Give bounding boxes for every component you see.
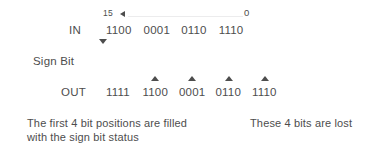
bit-index-lsb-label: 0: [244, 7, 249, 18]
bit-index-msb-label: 15: [103, 8, 113, 18]
triangle-up-icon: [261, 76, 269, 81]
out-row-label: OUT: [61, 86, 86, 98]
caption-left-line1: The first 4 bit positions are filled: [27, 116, 187, 130]
triangle-down-icon: [99, 39, 107, 44]
in-bit-group: 1110: [219, 24, 244, 36]
out-bit-group: 1110: [252, 86, 277, 98]
caption-left-line2: with the sign bit status: [27, 130, 187, 144]
triangle-up-icon: [151, 76, 159, 81]
sign-bit-label: Sign Bit: [33, 55, 74, 67]
ruler-line: [128, 16, 243, 17]
caption-right: These 4 bits are lost: [250, 116, 352, 130]
triangle-up-icon: [225, 76, 233, 81]
in-row-bits: 1100000101101110: [106, 24, 243, 36]
in-row-label: IN: [69, 24, 81, 36]
out-bit-group: 1100: [143, 86, 180, 98]
in-bit-group: 1100: [106, 24, 144, 36]
caption-left: The first 4 bit positions are filled wit…: [27, 116, 187, 144]
out-bit-group: 1111: [106, 86, 143, 98]
triangle-up-icon: [188, 76, 196, 81]
out-row-bits: 11111100000101101110: [106, 86, 277, 98]
out-bit-group: 0001: [179, 86, 216, 98]
in-bit-group: 0001: [144, 24, 182, 36]
in-bit-group: 0110: [181, 24, 219, 36]
out-bit-group: 0110: [216, 86, 253, 98]
triangle-left-icon: [120, 11, 125, 17]
